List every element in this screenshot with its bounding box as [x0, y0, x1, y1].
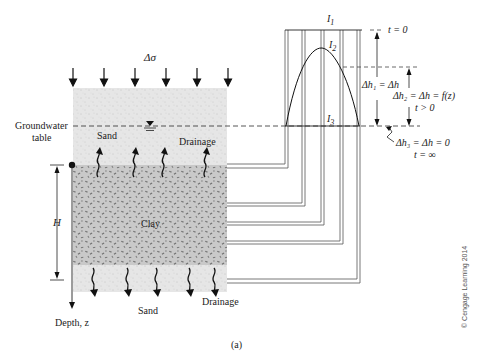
load-label: Δσ — [144, 52, 156, 63]
isochrone-I3-label: I3 — [327, 114, 334, 127]
t-inf-label: t = ∞ — [414, 150, 436, 160]
thickness-label: H — [53, 217, 61, 228]
bottom-sand-layer — [73, 265, 227, 292]
isochrone-I2-label: I2 — [329, 40, 336, 53]
dh1-label: Δh₁ = Δh — [362, 80, 399, 90]
dh2-label: Δh₂ = Δh = f(z) — [393, 91, 455, 101]
figure-caption: (a) — [231, 340, 242, 350]
clay-layer — [73, 165, 227, 265]
t0-label: t = 0 — [388, 25, 408, 35]
copyright-notice: © Cengage Learning 2014 — [461, 246, 468, 328]
clay-label: Clay — [141, 219, 160, 229]
depth-label: Depth, z — [55, 318, 89, 328]
isochrone-I1-label: I1 — [327, 14, 334, 27]
isochrone-I2 — [286, 48, 359, 126]
bottom-sand-label: Sand — [138, 306, 158, 316]
groundwater-label: Groundwater — [15, 121, 68, 131]
t-gt0-label: t > 0 — [415, 103, 435, 113]
top-sand-label: Sand — [97, 131, 117, 141]
bottom-drainage-label: Drainage — [202, 297, 239, 307]
top-sand-layer — [73, 88, 227, 165]
groundwater-label-table: table — [32, 133, 51, 143]
dh3-label: Δh₃ = Δh = 0 — [396, 138, 450, 148]
top-drainage-label: Drainage — [179, 137, 216, 147]
consolidation-diagram — [0, 0, 479, 360]
load-arrows — [70, 68, 232, 86]
